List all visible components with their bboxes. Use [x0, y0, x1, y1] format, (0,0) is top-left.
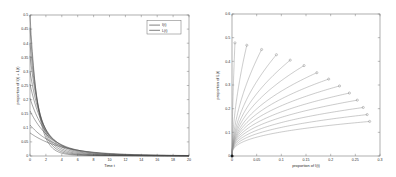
decay-curve: [30, 133, 189, 156]
x-tick-label: 12: [123, 158, 127, 162]
trajectory-endpoint-marker: [316, 72, 318, 74]
y-tick-label: 0.25: [21, 84, 28, 88]
origin-marker: [231, 155, 234, 158]
x-tick-label: 0: [231, 158, 233, 162]
y-tick-label: 0.3: [225, 83, 230, 87]
x-tick-label: 10: [108, 158, 112, 162]
y-tick-label: 0.5: [225, 36, 230, 40]
trajectory-curve: [232, 115, 367, 156]
trajectory-curve: [232, 107, 363, 156]
x-tick-label: 0.05: [253, 158, 260, 162]
y-tick-label: 0.2: [225, 107, 230, 111]
decay-curve: [30, 28, 189, 156]
x-tick-label: 6: [77, 158, 79, 162]
trajectory-curve: [232, 66, 304, 156]
y-tick-label: 0.1: [225, 131, 230, 135]
y-tick-label: 0.5: [23, 13, 28, 17]
x-axis-title: proportion of I(t): [292, 163, 320, 168]
left-plot-panel: 0246810121416182000.050.10.150.20.250.30…: [0, 0, 198, 177]
legend-entry-label: I(t): [162, 23, 166, 27]
x-tick-label: 2: [45, 158, 47, 162]
x-tick-label: 0.25: [352, 158, 359, 162]
y-tick-label: 0: [26, 154, 28, 158]
decay-curve: [30, 43, 189, 156]
y-tick-label: 0.1: [23, 126, 28, 130]
trajectory-curve: [232, 93, 349, 156]
legend-entry-label: L(t): [162, 29, 167, 33]
trajectory-endpoint-marker: [261, 48, 263, 50]
x-tick-label: 20: [187, 158, 191, 162]
x-tick-label: 14: [139, 158, 143, 162]
plot-frame: [30, 15, 189, 156]
right-plot-panel: 00.050.10.150.20.250.300.10.20.30.40.50.…: [198, 0, 396, 177]
x-tick-label: 0.3: [378, 158, 383, 162]
y-tick-label: 0.4: [225, 60, 230, 64]
y-tick-label: 0.05: [21, 140, 28, 144]
y-tick-label: 0.2: [23, 98, 28, 102]
trajectory-curve: [232, 121, 370, 156]
y-axis-title: proportion of I(t) + L(t): [15, 66, 20, 105]
x-tick-label: 0: [29, 158, 31, 162]
y-tick-label: 0.4: [23, 42, 28, 46]
left-plot-canvas: 0246810121416182000.050.10.150.20.250.30…: [0, 0, 198, 177]
x-tick-label: 0.15: [303, 158, 310, 162]
figure-container: 0246810121416182000.050.10.150.20.250.30…: [0, 0, 396, 177]
x-tick-label: 18: [171, 158, 175, 162]
y-tick-label: 0.3: [23, 70, 28, 74]
y-tick-label: 0.35: [21, 56, 28, 60]
x-tick-label: 0.2: [328, 158, 333, 162]
y-tick-label: 0.15: [21, 112, 28, 116]
x-tick-label: 16: [155, 158, 159, 162]
y-tick-label: 0.6: [225, 12, 230, 16]
x-tick-label: 8: [93, 158, 95, 162]
y-axis-title: proportion of L(t): [215, 70, 220, 99]
y-tick-label: 0: [228, 154, 230, 158]
x-tick-label: 4: [61, 158, 63, 162]
trajectory-curve: [232, 50, 262, 157]
x-tick-label: 0.1: [279, 158, 284, 162]
decay-curve: [30, 15, 189, 156]
x-axis-title: Time t: [104, 163, 116, 168]
right-plot-canvas: 00.050.10.150.20.250.300.10.20.30.40.50.…: [198, 0, 396, 177]
y-tick-label: 0.45: [21, 27, 28, 31]
